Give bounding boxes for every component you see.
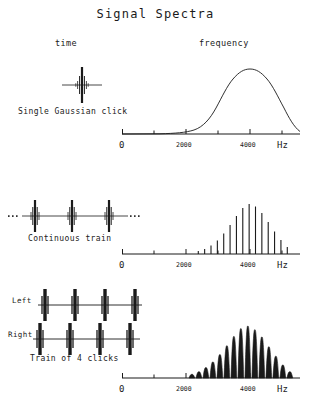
x-tick-label-0: 0 xyxy=(119,384,124,394)
chart-train-of-4-clicks-spectrum: 0 2000 4000 Hz xyxy=(119,326,300,394)
x-tick-label-0: 0 xyxy=(119,140,124,150)
x-tick-label-2000: 2000 xyxy=(176,261,192,269)
x-axis-ticks xyxy=(123,129,283,134)
waveform-train-of-4-clicks-right xyxy=(33,323,140,355)
chart-gaussian-click-spectrum: 0 2000 4000 Hz xyxy=(119,69,300,150)
waveform-continuous-train xyxy=(8,200,140,232)
x-tick-label-4000: 4000 xyxy=(240,141,256,149)
waveform-single-gaussian-click xyxy=(62,67,102,103)
waveform-train-of-4-clicks-left xyxy=(38,289,142,321)
x-tick-label-0: 0 xyxy=(119,260,124,270)
spectral-lines xyxy=(198,204,287,254)
x-tick-label-2000: 2000 xyxy=(176,385,192,393)
x-tick-label-2000: 2000 xyxy=(176,141,192,149)
spectral-lobes xyxy=(189,326,293,378)
signal-spectra-figure: Signal Spectra time frequency Single Gau… xyxy=(0,0,311,395)
x-axis-unit-label: Hz xyxy=(277,384,288,394)
x-axis-ticks xyxy=(123,249,283,254)
x-axis-ticks xyxy=(123,373,283,378)
x-axis-unit-label: Hz xyxy=(277,260,288,270)
x-tick-label-4000: 4000 xyxy=(240,385,256,393)
gaussian-curve xyxy=(122,69,300,134)
chart-continuous-train-spectrum: 0 2000 4000 Hz xyxy=(119,204,300,270)
x-tick-label-4000: 4000 xyxy=(240,261,256,269)
x-axis-unit-label: Hz xyxy=(277,140,288,150)
figure-canvas: 0 2000 4000 Hz xyxy=(0,0,311,395)
